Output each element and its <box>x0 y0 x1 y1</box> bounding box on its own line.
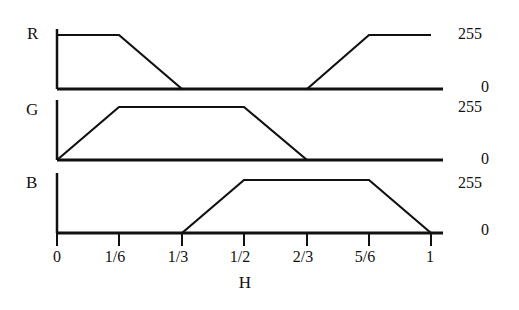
r-y-max-label: 255 <box>458 25 482 42</box>
panel-g <box>57 100 443 160</box>
panel-label-r: R <box>27 24 39 43</box>
rgb-hue-chart: R G B 255 0 255 0 255 0 0 1/6 1/3 1/2 2/… <box>0 0 519 310</box>
b-y-max-label: 255 <box>458 174 482 191</box>
g-y-min-label: 0 <box>481 150 489 167</box>
x-tick-label-1-3: 1/3 <box>168 248 188 265</box>
g-curve <box>57 107 307 160</box>
r-y-min-label: 0 <box>481 78 489 95</box>
panel-r <box>57 29 443 89</box>
b-curve <box>182 180 431 233</box>
x-tick-label-0: 0 <box>53 248 61 265</box>
x-tick-label-5-6: 5/6 <box>355 248 375 265</box>
panel-label-b: B <box>26 173 37 192</box>
x-tick-label-1: 1 <box>426 248 434 265</box>
x-tick-label-2-3: 2/3 <box>293 248 313 265</box>
x-tick-label-1-2: 1/2 <box>230 248 250 265</box>
x-ticks <box>57 233 431 246</box>
x-axis-title: H <box>239 273 251 292</box>
b-y-min-label: 0 <box>481 221 489 238</box>
g-y-max-label: 255 <box>458 98 482 115</box>
panel-label-g: G <box>26 100 38 119</box>
r-curve <box>57 35 431 89</box>
panel-b <box>57 173 443 233</box>
x-tick-label-1-6: 1/6 <box>105 248 125 265</box>
